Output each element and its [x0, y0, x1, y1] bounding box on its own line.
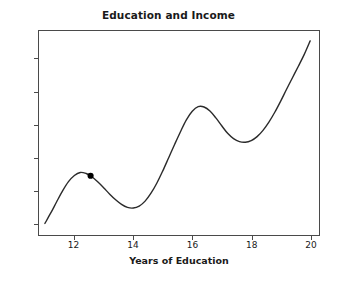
x-tick-label: 14	[113, 240, 153, 250]
x-axis-label: Years of Education	[38, 255, 320, 266]
x-tick-label: 18	[232, 240, 272, 250]
chart-title: Education and Income	[0, 9, 337, 21]
x-tick-label: 12	[54, 240, 94, 250]
x-tick-label: 16	[172, 240, 212, 250]
marker-layer	[88, 173, 94, 179]
chart-figure: Education and Income Lifetime Income Yea…	[0, 0, 337, 286]
data-line-lifetime-income	[45, 41, 310, 224]
plot-svg	[39, 31, 319, 235]
plot-area	[38, 30, 320, 236]
x-tick-label: 20	[291, 240, 331, 250]
highlight-point	[88, 173, 94, 179]
